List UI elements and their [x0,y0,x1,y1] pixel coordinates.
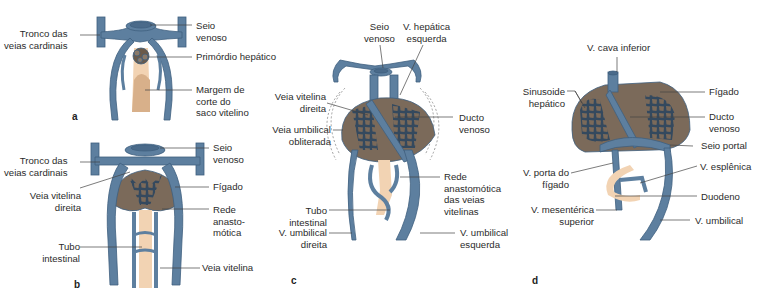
label-d-duodeno: Duodeno [701,191,740,203]
panel-b-illustration [91,143,204,288]
panel-c-illustration [327,60,439,240]
label-d-figado: Fígado [709,86,739,98]
label-d-umbilical: V. umbilical [695,215,743,227]
label-c-umbilical-direita: V. umbilical direita [250,227,327,250]
label-a-seio-venoso: Seio venoso [196,20,227,43]
label-c-veia-vitelina-direita: Veia vitelina direita [255,91,326,114]
embryology-figure [0,0,765,295]
label-a-tronco-cardinais: Tronco das veias cardinais [4,28,67,51]
label-b-veia-vitelina: Veia vitelina [202,262,253,274]
label-b-rede-anastomotica: Rede anasto- mótica [213,204,245,239]
label-d-sinusoide-hepatico: Sinusoide hepático [500,86,565,109]
panel-letter-c: c [291,275,297,286]
label-c-tubo-intestinal: Tubo intestinal [265,205,327,228]
label-b-veia-vitelina-direita: Veia vitelina direita [10,190,81,213]
label-c-umbilical-obliterada: Veia umbilical obliterada [245,124,331,147]
label-d-porta-figado: V. porta do fígado [510,167,569,190]
label-b-tronco-cardinais: Tronco das veias cardinais [4,155,67,178]
label-c-hepatica-esquerda: V. hepática esquerda [403,21,450,44]
label-d-ducto-venoso: Ducto venoso [709,111,740,134]
label-d-seio-portal: Seio portal [701,140,747,152]
label-d-mesenterica-superior: V. mesentérica superior [515,204,594,227]
panel-letter-d: d [532,275,538,286]
label-b-figado: Fígado [213,181,243,193]
label-c-umbilical-esquerda: V. umbilical esquerda [460,227,508,250]
label-c-seio-venoso: Seio venoso [364,21,395,44]
label-a-primordio-hepatico: Primórdio hepático [196,51,276,63]
label-d-esplenica: V. esplênica [700,161,751,173]
label-c-ducto-venoso: Ducto venoso [459,112,490,135]
label-b-tubo-intestinal: Tubo intestinal [20,241,80,264]
label-c-rede-anastomotica: Rede anastomótica das veias vitelinas [444,171,501,217]
panel-letter-a: a [72,111,78,122]
label-b-seio-venoso: Seio venoso [213,142,244,165]
label-a-margem-corte: Margem de corte do saco vitelino [196,84,249,119]
panel-letter-b: b [74,279,80,290]
label-d-cava-inferior: V. cava inferior [587,42,650,54]
panel-a-illustration [97,17,186,120]
